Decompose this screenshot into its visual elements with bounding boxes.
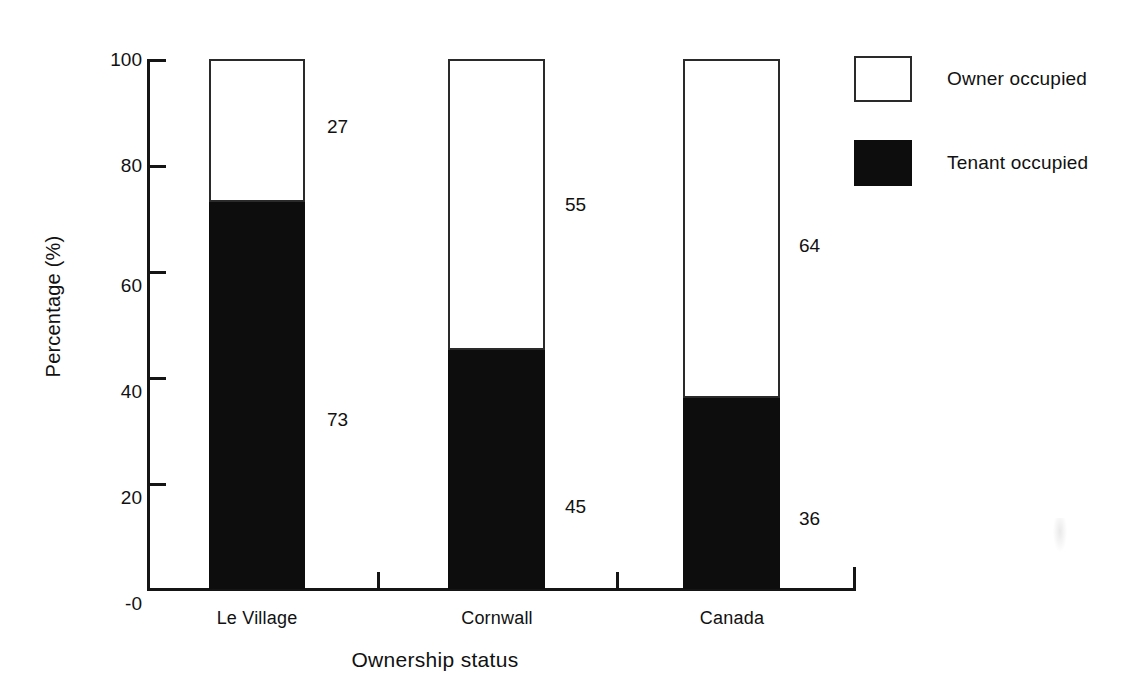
bar-segment-owner-cornwall xyxy=(448,59,545,350)
bar-label-owner-cornwall: 55 xyxy=(565,194,586,216)
y-tick-100 xyxy=(150,59,166,62)
y-tick-label-20: 20 xyxy=(82,487,142,509)
legend-swatch-owner-icon xyxy=(854,56,912,102)
x-axis-title: Ownership status xyxy=(0,648,870,672)
y-tick-label-0: -0 xyxy=(82,593,142,615)
stacked-bar-chart: Percentage (%) 100 80 60 40 20 -0 Le Vil… xyxy=(0,0,1124,695)
bar-label-owner-canada: 64 xyxy=(799,235,820,257)
y-axis-line xyxy=(147,59,150,591)
y-tick-60 xyxy=(150,271,166,274)
bar-label-tenant-cornwall: 45 xyxy=(565,496,586,518)
bar-le-village xyxy=(209,59,305,589)
bar-cornwall xyxy=(448,59,545,589)
x-axis-endcap-tick xyxy=(853,567,856,589)
x-tick-label-le-village: Le Village xyxy=(187,608,327,629)
bar-segment-owner-canada xyxy=(683,59,780,398)
x-tick-label-canada: Canada xyxy=(662,608,802,629)
bar-label-owner-le-village: 27 xyxy=(327,116,348,138)
scan-artifact xyxy=(1053,518,1067,552)
x-tick-divider-1 xyxy=(377,572,380,589)
bar-segment-tenant-cornwall xyxy=(448,350,545,589)
bar-segment-tenant-le-village xyxy=(209,202,305,589)
y-tick-label-60: 60 xyxy=(82,275,142,297)
bar-segment-owner-le-village xyxy=(209,59,305,202)
legend-label-owner: Owner occupied xyxy=(947,68,1087,90)
y-tick-40 xyxy=(150,377,166,380)
y-tick-80 xyxy=(150,165,166,168)
x-tick-divider-2 xyxy=(616,572,619,589)
bar-segment-tenant-canada xyxy=(683,398,780,589)
y-axis-title: Percentage (%) xyxy=(42,207,65,407)
y-tick-label-40: 40 xyxy=(82,381,142,403)
x-tick-label-cornwall: Cornwall xyxy=(427,608,567,629)
legend-label-tenant: Tenant occupied xyxy=(947,152,1088,174)
bar-label-tenant-canada: 36 xyxy=(799,508,820,530)
y-tick-label-80: 80 xyxy=(82,155,142,177)
legend-item-owner-occupied: Owner occupied xyxy=(854,56,1087,102)
bar-label-tenant-le-village: 73 xyxy=(327,409,348,431)
legend-item-tenant-occupied: Tenant occupied xyxy=(854,140,1088,186)
y-tick-20 xyxy=(150,483,166,486)
bar-canada xyxy=(683,59,780,589)
legend-swatch-tenant-icon xyxy=(854,140,912,186)
y-tick-label-100: 100 xyxy=(82,49,142,71)
